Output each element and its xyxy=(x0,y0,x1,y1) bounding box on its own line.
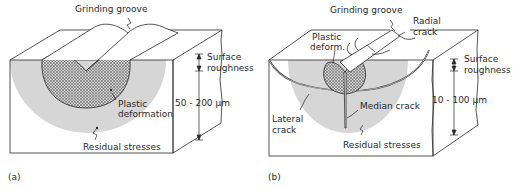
leader-grinding-groove-b xyxy=(390,20,395,31)
leader-radial-crack xyxy=(398,32,405,36)
label-surface-roughness-a-1: Surface xyxy=(207,52,242,62)
label-residual-stresses-b: Residual stresses xyxy=(343,140,421,150)
label-surface-roughness-b-1: Surface xyxy=(464,54,499,64)
block-right-face-b xyxy=(432,30,478,156)
label-grinding-groove-b: Grinding groove xyxy=(330,5,403,15)
label-plastic-deform-1: Plastic xyxy=(312,32,341,42)
label-radial-crack-1: Radial xyxy=(413,16,441,26)
label-depth-b: 10 - 100 µm xyxy=(432,95,487,105)
figure-a: Grinding groove Surface roughness 50 - 2… xyxy=(8,0,254,182)
label-radial-crack-2: crack xyxy=(413,27,438,37)
label-lateral-crack-1: Lateral xyxy=(272,114,303,124)
caption-a: (a) xyxy=(8,172,21,182)
label-depth-a: 50 - 200 µm xyxy=(175,98,230,108)
dimension-lines-a xyxy=(195,54,203,140)
figure-b: Grinding groove Radial crack Plastic def… xyxy=(268,0,511,182)
block-right-face xyxy=(173,30,222,153)
label-surface-roughness-a-2: roughness xyxy=(207,63,254,73)
label-lateral-crack-2: crack xyxy=(272,125,297,135)
label-grinding-groove-a: Grinding groove xyxy=(75,4,148,14)
label-plastic-deformation-a-2: deformation xyxy=(118,109,173,119)
label-residual-stresses-a: Residual stresses xyxy=(83,142,161,152)
caption-b: (b) xyxy=(268,172,281,182)
leader-grinding-groove-a xyxy=(127,18,131,29)
label-surface-roughness-b-2: roughness xyxy=(464,65,511,75)
label-plastic-deformation-a-1: Plastic xyxy=(118,99,147,109)
label-median-crack: Median crack xyxy=(360,101,421,111)
label-plastic-deform-2: deform. xyxy=(310,42,345,52)
